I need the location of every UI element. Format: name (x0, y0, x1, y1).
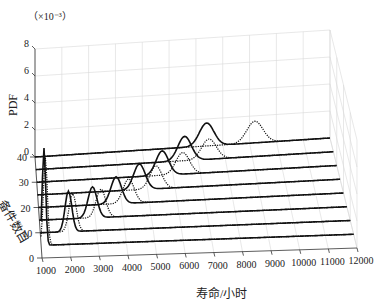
svg-text:2: 2 (24, 119, 29, 130)
svg-text:4000: 4000 (122, 262, 142, 273)
svg-text:0: 0 (29, 253, 34, 264)
svg-text:12000: 12000 (349, 255, 374, 266)
z-multiplier-label: （×10⁻³） (28, 8, 72, 23)
svg-text:10000: 10000 (291, 257, 316, 268)
svg-text:4: 4 (24, 92, 29, 103)
svg-text:5000: 5000 (151, 261, 171, 272)
z-axis-label: PDF (6, 94, 21, 116)
svg-text:1000: 1000 (36, 265, 56, 276)
svg-text:6000: 6000 (179, 260, 199, 271)
svg-text:6: 6 (24, 65, 29, 76)
waterfall-chart: 1000200030004000500060007000800090001000… (0, 0, 382, 303)
solid-pdf-curve (40, 191, 350, 233)
svg-text:11000: 11000 (320, 256, 345, 267)
solid-pdf-curve (35, 123, 330, 157)
grid-lines (35, 30, 357, 258)
svg-text:20: 20 (21, 203, 31, 214)
svg-text:8000: 8000 (236, 259, 256, 270)
svg-text:9000: 9000 (265, 258, 285, 269)
x-axis-label: 寿命/小时 (196, 284, 247, 302)
dotted-pdf-curve (35, 121, 330, 157)
svg-text:8: 8 (24, 38, 29, 49)
svg-text:7000: 7000 (208, 260, 228, 271)
svg-text:2000: 2000 (65, 264, 85, 275)
svg-text:0: 0 (24, 146, 29, 157)
pdf-curves (35, 121, 354, 245)
svg-text:30: 30 (19, 177, 29, 188)
svg-text:3000: 3000 (93, 263, 113, 274)
